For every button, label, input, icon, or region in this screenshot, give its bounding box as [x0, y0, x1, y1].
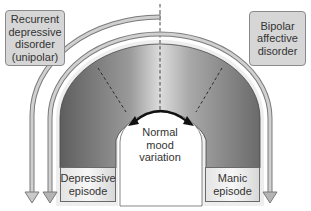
unipolar-line-1: Recurrent: [8, 13, 61, 26]
bipolar-right-arrowhead-icon: [263, 192, 277, 203]
unipolar-line-4: (unipolar): [8, 51, 61, 64]
unipolar-line-2: depressive: [8, 26, 61, 39]
bipolar-line-3: disorder: [257, 45, 298, 58]
manic-episode-box: Manic episode: [205, 167, 260, 202]
depressive-line-1: Depressive: [60, 172, 115, 185]
depressive-line-2: episode: [60, 185, 115, 198]
bipolar-line-2: affective: [257, 32, 298, 45]
bipolar-line-1: Bipolar: [257, 20, 298, 33]
unipolar-arrowhead-icon: [25, 192, 39, 203]
bipolar-label: Bipolar affective disorder: [249, 11, 306, 66]
manic-line-1: Manic: [213, 172, 252, 185]
unipolar-line-3: disorder: [8, 38, 61, 51]
unipolar-label: Recurrent depressive disorder (unipolar): [5, 10, 65, 66]
normal-line-2: mood: [130, 139, 190, 152]
normal-line-1: Normal: [130, 126, 190, 139]
depressive-episode-box: Depressive episode: [60, 167, 116, 202]
normal-line-3: variation: [130, 151, 190, 164]
normal-mood-label: Normal mood variation: [130, 126, 190, 164]
manic-line-2: episode: [213, 185, 252, 198]
bipolar-left-arrowhead-icon: [43, 192, 57, 203]
